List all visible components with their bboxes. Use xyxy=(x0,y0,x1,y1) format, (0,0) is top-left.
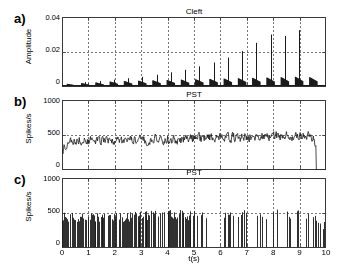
panel-a-ytick-1: 0.02 xyxy=(34,45,60,54)
figure-container: a) Cleft Amplitude 0.04 0.02 0 b) PST Sp… xyxy=(0,0,339,269)
panel-b-ytick-2: 1000 xyxy=(36,96,60,105)
panel-b-ytick-1: 500 xyxy=(36,128,60,137)
panel-c-title: PST xyxy=(154,168,234,177)
panel-c-ytick-2: 1000 xyxy=(36,174,60,183)
x-tick-8: 8 xyxy=(266,248,280,257)
panel-a-plot xyxy=(62,17,326,87)
panel-c-plot xyxy=(62,178,326,248)
panel-c-ytick-0: 0 xyxy=(36,238,60,247)
x-tick-7: 7 xyxy=(240,248,254,257)
panel-a-title: Cleft xyxy=(154,7,234,16)
panel-a-ytick-0: 0 xyxy=(34,77,60,86)
x-tick-6: 6 xyxy=(213,248,227,257)
panel-b-ytick-0: 0 xyxy=(36,160,60,169)
panel-b-title: PST xyxy=(154,90,234,99)
panel-c-ytick-1: 500 xyxy=(36,206,60,215)
x-tick-2: 2 xyxy=(108,248,122,257)
x-tick-1: 1 xyxy=(81,248,95,257)
x-tick-0: 0 xyxy=(55,248,69,257)
panel-a-ytick-2: 0.04 xyxy=(34,13,60,22)
x-tick-4: 4 xyxy=(161,248,175,257)
x-tick-10: 10 xyxy=(319,248,333,257)
panel-b-ylabel: Spikes/s xyxy=(24,108,33,150)
panel-b-plot xyxy=(62,100,326,170)
x-tick-9: 9 xyxy=(293,248,307,257)
x-tick-3: 3 xyxy=(134,248,148,257)
panel-c-ylabel: Spikes/s xyxy=(24,186,33,228)
x-axis-label: t(s) xyxy=(174,254,214,263)
panel-a-ylabel: Amplitude xyxy=(24,24,33,70)
